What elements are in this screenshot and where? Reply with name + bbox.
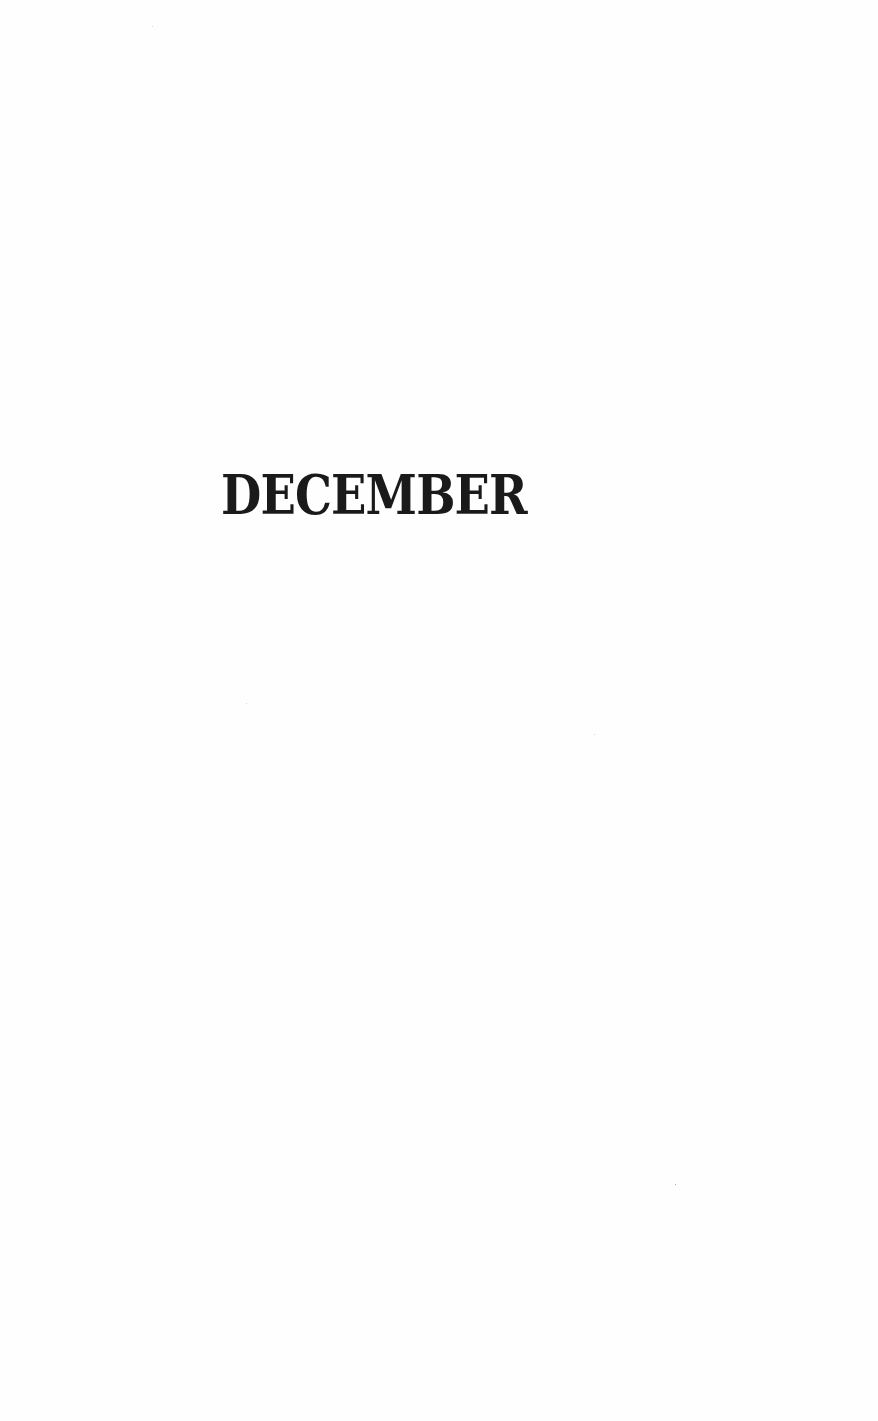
scan-speck [594,734,595,735]
chapter-title: DECEMBER [221,468,527,522]
scan-speck [246,703,247,704]
scan-speck [152,26,153,27]
document-page: DECEMBER [0,0,878,1421]
scan-speck [675,1184,676,1185]
